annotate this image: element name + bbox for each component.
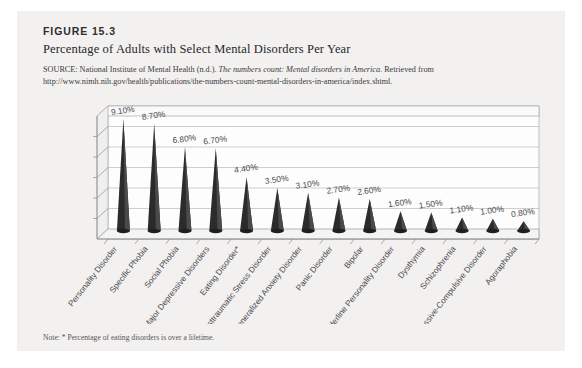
figure-container: FIGURE 15.3 Percentage of Adults with Se… xyxy=(17,11,565,351)
category-label: Bipolar xyxy=(342,244,365,270)
x-axis-tick xyxy=(258,239,262,244)
x-axis-tick xyxy=(289,239,293,244)
x-axis-tick xyxy=(320,239,324,244)
x-axis-tick xyxy=(197,239,201,244)
chart-svg: 9.10%Personality Disorder8.70%Specific P… xyxy=(67,94,545,324)
x-axis-tick xyxy=(412,239,416,244)
category-label: Personality Disorder xyxy=(67,244,119,308)
bar-chart: 9.10%Personality Disorder8.70%Specific P… xyxy=(67,94,545,324)
x-axis-tick xyxy=(135,239,139,244)
chart-back-wall xyxy=(108,106,539,239)
x-axis-tick xyxy=(227,239,231,244)
source-prefix: SOURCE: National Institute of Mental Hea… xyxy=(43,65,219,74)
source-citation-italic: The numbers count: Mental disorders in A… xyxy=(219,65,380,74)
x-axis-tick xyxy=(166,239,170,244)
category-label: Dysthymia xyxy=(396,244,427,280)
x-axis-tick xyxy=(443,239,447,244)
chart-floor xyxy=(97,229,539,239)
x-axis-tick xyxy=(104,239,108,244)
figure-title: Percentage of Adults with Select Mental … xyxy=(43,42,351,57)
x-axis-tick xyxy=(474,239,478,244)
figure-source: SOURCE: National Institute of Mental Hea… xyxy=(43,64,548,87)
x-axis-tick xyxy=(535,239,539,244)
figure-note: Note: * Percentage of eating disorders i… xyxy=(43,333,214,342)
x-axis-tick xyxy=(350,239,354,244)
x-axis-tick xyxy=(381,239,385,244)
category-label: Agoraphobia xyxy=(484,244,520,286)
figure-number: FIGURE 15.3 xyxy=(43,25,116,37)
x-axis-tick xyxy=(504,239,508,244)
